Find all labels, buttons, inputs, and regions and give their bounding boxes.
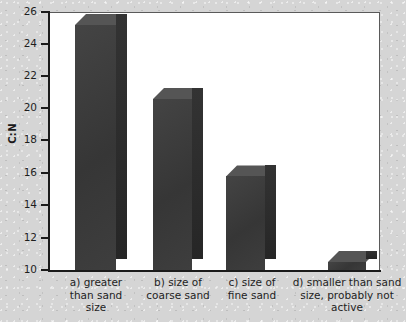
bar-side-face bbox=[116, 14, 127, 259]
y-axis-label: 12 bbox=[3, 232, 37, 242]
x-axis-label-line: a) greater bbox=[52, 276, 140, 289]
y-axis-label: 24 bbox=[3, 38, 37, 48]
y-axis-line bbox=[48, 11, 50, 272]
bar-front-face bbox=[226, 176, 265, 270]
bar-chart: C:N 26 24 22 20 18 16 14 12 10 a) great bbox=[0, 0, 406, 322]
y-axis-tick bbox=[41, 107, 48, 109]
bar-category-c[interactable] bbox=[226, 165, 276, 270]
x-axis-label-c: c) size of fine sand bbox=[212, 276, 292, 301]
x-axis-label-line: size bbox=[52, 301, 140, 314]
y-axis-label: 10 bbox=[3, 264, 37, 274]
x-axis-label-line: active bbox=[288, 301, 406, 314]
y-axis-label: 22 bbox=[3, 70, 37, 80]
bar-category-b[interactable] bbox=[153, 88, 203, 270]
x-axis-label-line: d) smaller than sand bbox=[288, 276, 406, 289]
y-axis-tick bbox=[41, 11, 48, 13]
y-axis-tick bbox=[41, 269, 48, 271]
y-axis-tick bbox=[41, 43, 48, 45]
y-axis-tick bbox=[41, 75, 48, 77]
x-axis-line bbox=[48, 270, 381, 272]
y-axis-tick bbox=[41, 237, 48, 239]
x-axis-label-line: fine sand bbox=[212, 289, 292, 302]
x-axis-label-a: a) greater than sand size bbox=[52, 276, 140, 314]
x-axis-label-line: c) size of bbox=[212, 276, 292, 289]
x-axis-label-line: than sand bbox=[52, 289, 140, 302]
x-axis-label-line: size, probably not bbox=[288, 289, 406, 302]
bar-category-d[interactable] bbox=[328, 251, 377, 270]
x-axis-label-d: d) smaller than sand size, probably not … bbox=[288, 276, 406, 314]
bar-side-face bbox=[366, 251, 377, 259]
bar-category-a[interactable] bbox=[75, 14, 127, 270]
y-axis-label: 20 bbox=[3, 102, 37, 112]
y-axis-label: 26 bbox=[3, 6, 37, 16]
bar-front-face bbox=[75, 25, 116, 270]
y-axis-label: 16 bbox=[3, 167, 37, 177]
y-axis-tick bbox=[41, 204, 48, 206]
bar-side-face bbox=[265, 165, 276, 259]
bar-front-face bbox=[153, 99, 192, 270]
bar-side-face bbox=[192, 88, 203, 259]
y-axis-tick bbox=[41, 139, 48, 141]
bar-front-face bbox=[328, 262, 366, 270]
y-axis-label: 14 bbox=[3, 199, 37, 209]
y-axis-label: 18 bbox=[3, 134, 37, 144]
y-axis-tick bbox=[41, 172, 48, 174]
